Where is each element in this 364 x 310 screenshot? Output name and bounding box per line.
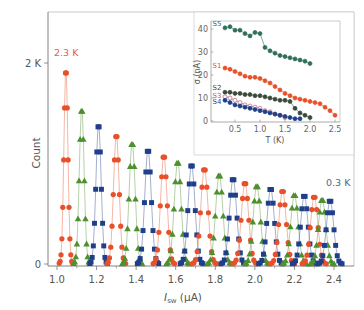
inset-data-point bbox=[258, 76, 262, 80]
data-point-square bbox=[264, 221, 269, 226]
x-axis-label-subscript: sw bbox=[167, 297, 177, 305]
x-tick-label: 1.0 bbox=[49, 274, 65, 285]
inset-data-point bbox=[238, 91, 242, 95]
histogram-peak bbox=[70, 108, 93, 266]
inset-data-point bbox=[233, 103, 237, 107]
data-point-circle bbox=[114, 134, 119, 139]
data-point-circle bbox=[306, 242, 311, 247]
inset-y-tick-label: 0 bbox=[203, 117, 208, 126]
inset-data-point bbox=[313, 101, 317, 105]
data-point-triangle bbox=[126, 196, 133, 202]
inset-data-point bbox=[268, 49, 272, 53]
data-point-circle bbox=[214, 261, 219, 266]
data-point-square bbox=[190, 164, 195, 169]
inset-data-point bbox=[258, 94, 262, 98]
data-point-triangle bbox=[294, 205, 301, 211]
inset-data-point bbox=[233, 91, 237, 95]
x-tick-label: 2.2 bbox=[286, 274, 302, 285]
annotation-high-temp: 2.3 K bbox=[54, 47, 79, 58]
data-point-circle bbox=[278, 202, 283, 207]
inset-data-point bbox=[303, 59, 307, 63]
data-point-square bbox=[191, 182, 196, 187]
inset-data-point bbox=[288, 99, 292, 103]
inset-data-point bbox=[278, 88, 282, 92]
inset-data-point bbox=[293, 96, 297, 100]
data-point-circle bbox=[66, 205, 71, 210]
inset-data-point bbox=[253, 94, 257, 98]
data-point-triangle bbox=[212, 213, 219, 219]
data-point-square bbox=[304, 206, 309, 211]
inset-data-point bbox=[233, 70, 237, 74]
inset-data-point bbox=[238, 72, 242, 76]
data-point-circle bbox=[109, 224, 114, 229]
data-point-square bbox=[231, 177, 236, 182]
data-point-circle bbox=[108, 245, 113, 250]
histogram-peak bbox=[57, 70, 76, 266]
data-point-square bbox=[101, 243, 106, 248]
inset-y-tick-label: 10 bbox=[198, 94, 208, 103]
data-point-circle bbox=[198, 210, 203, 215]
inset-data-point bbox=[303, 113, 307, 117]
inset-data-point bbox=[288, 116, 292, 120]
data-point-circle bbox=[59, 236, 64, 241]
data-point-square bbox=[139, 247, 144, 252]
inset-data-point bbox=[238, 104, 242, 108]
data-point-square bbox=[223, 250, 228, 255]
inset-data-point bbox=[298, 117, 302, 121]
inset-data-point bbox=[223, 98, 227, 102]
data-point-square bbox=[143, 170, 148, 175]
x-tick-label: 2.4 bbox=[326, 274, 342, 285]
data-point-circle bbox=[158, 203, 163, 208]
inset-x-label: T (K) bbox=[265, 136, 285, 145]
data-point-circle bbox=[65, 105, 70, 110]
peak-line bbox=[59, 73, 72, 263]
inset-data-point bbox=[248, 106, 252, 110]
annotation-low-temp: 0.3 K bbox=[326, 177, 351, 188]
inset-data-point bbox=[298, 58, 302, 62]
data-point-triangle bbox=[134, 225, 141, 231]
data-point-square bbox=[225, 237, 230, 242]
inset-data-point bbox=[273, 112, 277, 116]
data-point-circle bbox=[246, 218, 251, 223]
inset-data-point bbox=[273, 51, 277, 55]
data-point-circle bbox=[235, 251, 240, 256]
data-point-circle bbox=[67, 236, 72, 241]
data-point-circle bbox=[271, 258, 276, 263]
data-point-square bbox=[266, 201, 271, 206]
data-point-triangle bbox=[177, 178, 184, 184]
inset-x-tick-label: 1.0 bbox=[254, 125, 267, 134]
data-point-square bbox=[330, 210, 335, 215]
data-point-square bbox=[184, 232, 189, 237]
data-point-triangle bbox=[218, 189, 225, 195]
data-point-circle bbox=[155, 247, 160, 252]
data-point-triangle bbox=[326, 252, 333, 258]
data-point-square bbox=[328, 199, 333, 204]
data-point-triangle bbox=[258, 219, 265, 225]
data-point-circle bbox=[64, 70, 69, 75]
data-point-triangle bbox=[256, 198, 263, 204]
data-point-circle bbox=[282, 202, 287, 207]
data-point-square bbox=[100, 221, 105, 226]
data-point-circle bbox=[309, 207, 314, 212]
data-point-circle bbox=[196, 233, 201, 238]
data-point-circle bbox=[68, 252, 73, 257]
data-point-circle bbox=[245, 196, 250, 201]
data-point-triangle bbox=[82, 215, 89, 221]
data-point-square bbox=[263, 239, 268, 244]
peak-line bbox=[122, 144, 142, 263]
data-point-circle bbox=[324, 261, 329, 266]
peak-line bbox=[74, 111, 90, 263]
inset-data-point bbox=[243, 105, 247, 109]
data-point-square bbox=[322, 243, 327, 248]
data-point-circle bbox=[172, 261, 177, 266]
x-tick-label: 1.6 bbox=[168, 274, 184, 285]
data-point-square bbox=[233, 193, 238, 198]
data-point-circle bbox=[273, 252, 278, 257]
x-axis-ticks: 1.01.21.41.61.82.02.22.4 bbox=[49, 266, 342, 285]
data-point-circle bbox=[60, 205, 65, 210]
data-point-circle bbox=[303, 258, 308, 263]
inset-data-point bbox=[283, 114, 287, 118]
inset-data-point bbox=[248, 34, 252, 38]
data-point-square bbox=[142, 200, 147, 205]
data-point-square bbox=[146, 149, 151, 154]
